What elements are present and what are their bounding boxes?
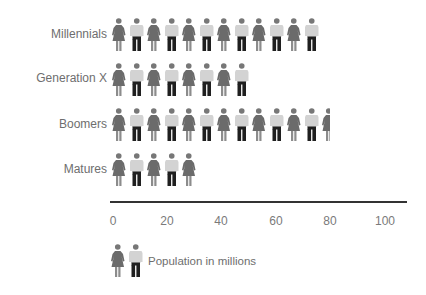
woman-icon (110, 62, 128, 98)
woman-icon (250, 17, 268, 53)
x-axis-line (110, 201, 407, 203)
x-tick-0: 0 (110, 214, 117, 228)
man-icon (128, 107, 146, 143)
woman-icon (285, 17, 303, 53)
man-icon (268, 107, 286, 143)
man-icon (303, 107, 321, 143)
woman-icon (145, 107, 163, 143)
woman-icon (110, 17, 128, 53)
pictogram-row-millennials (110, 17, 320, 53)
x-tick-40: 40 (214, 214, 227, 228)
man-icon (198, 107, 216, 143)
pictogram-row-generation-x (110, 62, 250, 98)
man-icon (233, 62, 251, 98)
woman-icon (215, 107, 233, 143)
woman-and-man-pair-icon (109, 243, 144, 279)
woman-icon (145, 17, 163, 53)
woman-icon (215, 17, 233, 53)
man-icon (198, 17, 216, 53)
woman-icon (285, 107, 303, 143)
man-icon (198, 62, 216, 98)
chart-title-remnant (0, 0, 140, 4)
woman-icon (180, 62, 198, 98)
man-icon (163, 107, 181, 143)
man-icon (268, 17, 286, 53)
woman-icon (145, 152, 163, 188)
woman-icon (110, 107, 128, 143)
row-label-millennials: Millennials (51, 27, 107, 41)
man-icon (233, 107, 251, 143)
man-icon (128, 152, 146, 188)
man-icon (233, 17, 251, 53)
pictogram-row-boomers (110, 107, 330, 143)
x-tick-100: 100 (375, 214, 395, 228)
man-icon (128, 62, 146, 98)
woman-icon (215, 62, 233, 98)
man-icon (163, 17, 181, 53)
legend: Population in millions (109, 243, 256, 279)
woman-icon (250, 107, 268, 143)
row-label-boomers: Boomers (59, 117, 107, 131)
woman-icon (109, 243, 127, 279)
man-icon (127, 243, 145, 279)
x-tick-20: 20 (160, 214, 173, 228)
legend-label: Population in millions (148, 255, 256, 267)
woman-icon (180, 107, 198, 143)
man-icon (163, 62, 181, 98)
woman-icon (180, 152, 198, 188)
pictogram-row-matures (110, 152, 198, 188)
row-label-generation-x: Generation X (36, 71, 107, 85)
x-tick-60: 60 (269, 214, 282, 228)
man-icon (163, 152, 181, 188)
man-icon (303, 17, 321, 53)
woman-icon (320, 107, 330, 143)
row-label-matures: Matures (64, 162, 107, 176)
woman-icon (180, 17, 198, 53)
man-icon (128, 17, 146, 53)
x-tick-80: 80 (323, 214, 336, 228)
woman-icon (145, 62, 163, 98)
woman-icon (110, 152, 128, 188)
